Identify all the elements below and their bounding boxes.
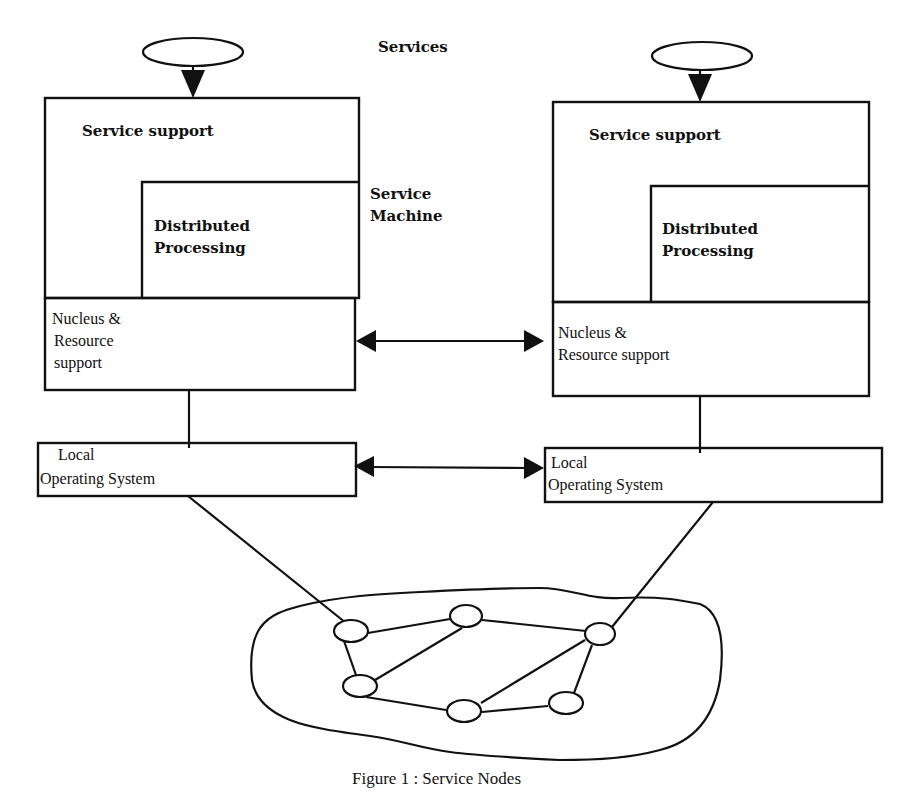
right-nucleus-label-1: Nucleus & — [558, 324, 627, 341]
network-nodes — [334, 605, 615, 722]
service-nodes-diagram: Services Service support Distributed Pro… — [0, 0, 912, 811]
right-service-oval — [652, 42, 752, 102]
right-local-label: Local — [551, 454, 588, 471]
left-local-label: Local — [58, 446, 95, 463]
arrow-down-icon — [181, 70, 205, 98]
network-node — [585, 623, 615, 645]
network-node — [447, 700, 481, 722]
right-os-label: Operating System — [548, 476, 664, 494]
service-machine-label-1: Service — [370, 185, 431, 203]
os-link-arrow — [354, 456, 544, 479]
left-service-oval — [143, 38, 243, 98]
right-service-machine: Service support Distributed Processing N… — [553, 102, 869, 396]
right-distributed-label-1: Distributed — [662, 220, 759, 238]
network-node — [549, 692, 583, 714]
network-node — [334, 620, 368, 642]
network-cloud — [251, 588, 722, 760]
left-os-network-link — [188, 496, 346, 623]
network-node — [343, 675, 377, 697]
right-nucleus-label-2: Resource support — [558, 346, 670, 364]
left-distributed-label-2: Processing — [154, 239, 246, 257]
figure-caption: Figure 1 : Service Nodes — [352, 769, 521, 788]
left-os-label: Operating System — [40, 470, 156, 488]
left-service-machine: Service support Distributed Processing N… — [45, 98, 359, 390]
left-nucleus-label-3: support — [54, 354, 103, 372]
arrow-down-icon — [688, 74, 712, 102]
network-node — [450, 605, 482, 627]
right-service-support-label: Service support — [589, 126, 721, 144]
left-local-os-box: Local Operating System — [38, 443, 356, 496]
left-distributed-label-1: Distributed — [154, 217, 251, 235]
services-title: Services — [378, 38, 448, 56]
right-os-network-link — [612, 502, 713, 627]
left-nucleus-label-2: Resource — [54, 332, 114, 349]
right-distributed-label-2: Processing — [662, 242, 754, 260]
service-machine-label-2: Machine — [370, 207, 443, 225]
nucleus-link-arrow — [356, 330, 544, 352]
left-nucleus-label-1: Nucleus & — [52, 310, 121, 327]
right-local-os-box: Local Operating System — [545, 448, 882, 502]
left-service-support-label: Service support — [82, 122, 214, 140]
